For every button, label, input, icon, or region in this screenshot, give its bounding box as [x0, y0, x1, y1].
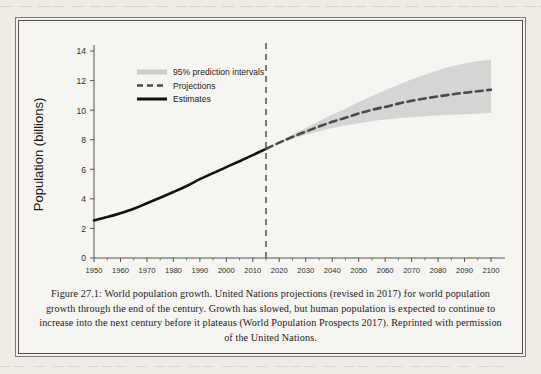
population-chart: 0246810121419501960197019801990200020102…: [19, 21, 526, 286]
legend-swatch-band: [137, 70, 167, 75]
x-tick-label: 2080: [430, 266, 447, 275]
figure-inner-frame: 0246810121419501960197019801990200020102…: [18, 20, 523, 354]
legend-label: Estimates: [173, 94, 211, 104]
x-tick-label: 2030: [297, 266, 314, 275]
prediction-interval-band: [266, 60, 491, 149]
y-axis-title: Population (billions): [31, 98, 46, 211]
y-tick-label: 4: [81, 194, 86, 204]
x-tick-label: 1960: [112, 266, 129, 275]
x-tick-label: 2040: [324, 266, 341, 275]
y-tick-label: 10: [77, 106, 87, 116]
x-tick-label: 2070: [403, 266, 420, 275]
chart-canvas: 0246810121419501960197019801990200020102…: [19, 21, 526, 286]
figure-caption: Figure 27.1: World population growth. Un…: [39, 287, 502, 345]
x-tick-label: 1990: [191, 266, 208, 275]
x-tick-label: 1970: [138, 266, 155, 275]
y-tick-label: 8: [81, 135, 86, 145]
y-tick-label: 6: [81, 165, 86, 175]
x-tick-label: 1980: [165, 266, 182, 275]
x-tick-label: 2010: [244, 266, 261, 275]
y-tick-label: 14: [77, 46, 87, 56]
x-tick-label: 2020: [271, 266, 288, 275]
figure-outer-frame: 0246810121419501960197019801990200020102…: [15, 17, 526, 357]
y-tick-label: 2: [81, 224, 86, 234]
x-tick-label: 2050: [350, 266, 367, 275]
y-tick-label: 12: [77, 76, 87, 86]
legend-label: 95% prediction intervals: [173, 67, 264, 77]
legend-label: Projections: [173, 81, 216, 91]
estimates-line: [94, 149, 266, 221]
x-tick-label: 2060: [377, 266, 394, 275]
x-tick-label: 2100: [483, 266, 500, 275]
x-tick-label: 1950: [86, 266, 103, 275]
page-bleed-bottom: —— — —— ——— — —— —— —— — ——— — —— —— ———…: [0, 359, 541, 374]
page-bleed-top: — — —— — —— —— — ——— — —— —— — ——— —— — …: [0, 0, 541, 14]
x-tick-label: 2000: [218, 266, 235, 275]
x-tick-label: 2090: [456, 266, 473, 275]
y-tick-label: 0: [81, 253, 86, 263]
